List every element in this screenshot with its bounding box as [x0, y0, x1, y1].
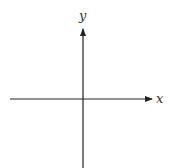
coordinate-axes: y x: [0, 0, 176, 168]
y-axis-label: y: [78, 8, 87, 23]
x-axis-label: x: [156, 91, 164, 106]
